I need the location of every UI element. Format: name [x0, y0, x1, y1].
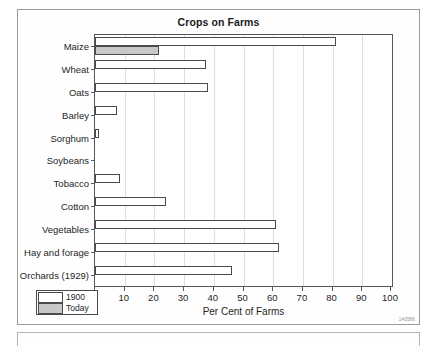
bar-row: Wheat — [95, 58, 392, 81]
x-axis-tick — [124, 287, 125, 291]
x-axis-tick — [332, 287, 333, 291]
y-axis-tick — [91, 206, 95, 207]
x-axis-tick-label: 70 — [297, 292, 308, 303]
figure-frame: Crops on Farms MaizeWheatOatsBarleySorgh… — [17, 9, 420, 325]
y-axis-tick — [91, 69, 95, 70]
bar-row: Soybeans — [95, 149, 392, 172]
chart-legend: 1900Today — [36, 290, 98, 315]
bar-1900 — [95, 106, 117, 115]
legend-swatch — [38, 292, 63, 303]
bar-row: Orchards (1929) — [95, 263, 392, 286]
x-axis-tick-label: 40 — [208, 292, 219, 303]
x-axis: 0102030405060708090100 Per Cent of Farms — [94, 287, 393, 317]
x-axis-tick-label: 80 — [326, 292, 337, 303]
y-axis-label: Wheat — [62, 64, 89, 75]
figure-code: 140586 — [399, 317, 415, 322]
bar-1900 — [95, 220, 276, 229]
x-axis-tick-label: 20 — [148, 292, 159, 303]
y-axis-label: Cotton — [61, 201, 89, 212]
x-axis-tick-label: 90 — [356, 292, 367, 303]
y-axis-tick — [91, 252, 95, 253]
bar-row: Barley — [95, 103, 392, 126]
x-axis-tick — [213, 287, 214, 291]
bar-row: Vegetables — [95, 218, 392, 241]
legend-label: 1900 — [66, 292, 85, 303]
bar-1900 — [95, 174, 120, 183]
y-axis-tick — [91, 160, 95, 161]
bar-row: Tobacco — [95, 172, 392, 195]
y-axis-tick — [91, 138, 95, 139]
x-axis-tick — [302, 287, 303, 291]
x-axis-tick-label: 50 — [237, 292, 248, 303]
x-axis-tick — [361, 287, 362, 291]
next-figure-frame — [17, 332, 420, 346]
legend-swatch — [38, 303, 63, 314]
y-axis-label: Maize — [64, 41, 89, 52]
bar-row: Oats — [95, 81, 392, 104]
plot-area: MaizeWheatOatsBarleySorghumSoybeansTobac… — [94, 34, 393, 287]
x-axis-tick — [243, 287, 244, 291]
x-axis-tick — [153, 287, 154, 291]
y-axis-tick — [91, 275, 95, 276]
y-axis-tick — [91, 183, 95, 184]
bar-1900 — [95, 266, 232, 275]
bar-rows: MaizeWheatOatsBarleySorghumSoybeansTobac… — [95, 35, 392, 286]
y-axis-label: Soybeans — [47, 155, 89, 166]
bar-today — [95, 46, 159, 55]
bar-1900 — [95, 83, 208, 92]
x-axis-tick-label: 100 — [382, 292, 398, 303]
y-axis-label: Barley — [62, 109, 89, 120]
y-axis-label: Vegetables — [42, 223, 89, 234]
y-axis-label: Hay and forage — [24, 246, 89, 257]
legend-label: Today — [66, 303, 89, 314]
x-axis-tick — [390, 287, 391, 291]
chart-title: Crops on Farms — [18, 16, 419, 28]
x-axis-tick — [272, 287, 273, 291]
x-axis-tick-label: 60 — [267, 292, 278, 303]
y-axis-tick — [91, 229, 95, 230]
y-axis-label: Tobacco — [54, 178, 89, 189]
bar-1900 — [95, 37, 336, 46]
bar-row: Sorghum — [95, 126, 392, 149]
y-axis-label: Sorghum — [50, 132, 89, 143]
x-axis-tick-label: 30 — [178, 292, 189, 303]
bar-row: Cotton — [95, 195, 392, 218]
x-axis-tick — [183, 287, 184, 291]
x-axis-tick-label: 10 — [118, 292, 129, 303]
bar-row: Maize — [95, 35, 392, 58]
bar-1900 — [95, 129, 99, 138]
x-axis-title: Per Cent of Farms — [94, 306, 393, 317]
y-axis-label: Orchards (1929) — [20, 269, 89, 280]
bar-1900 — [95, 243, 279, 252]
y-axis-label: Oats — [69, 87, 89, 98]
bar-1900 — [95, 197, 166, 206]
y-axis-tick — [91, 115, 95, 116]
bar-row: Hay and forage — [95, 240, 392, 263]
bar-1900 — [95, 60, 206, 69]
y-axis-tick — [91, 92, 95, 93]
legend-item: 1900 — [37, 292, 97, 303]
legend-item: Today — [37, 303, 97, 314]
